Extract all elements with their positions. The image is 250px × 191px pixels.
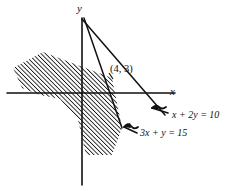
equation-label-2: 3x + y = 15 bbox=[140, 128, 187, 138]
axis-label-y: y bbox=[77, 3, 82, 14]
graph-figure: x y (4, 3) x + 2y = 10 3x + y = 15 bbox=[0, 0, 250, 191]
intersection-point-label: (4, 3) bbox=[110, 64, 133, 75]
shaded-feasible-region bbox=[13, 52, 122, 155]
equation-label-1: x + 2y = 10 bbox=[172, 110, 219, 120]
graph-canvas bbox=[0, 0, 250, 191]
leader-arrow-eq2-icon bbox=[124, 123, 138, 133]
axis-label-x: x bbox=[170, 86, 175, 97]
